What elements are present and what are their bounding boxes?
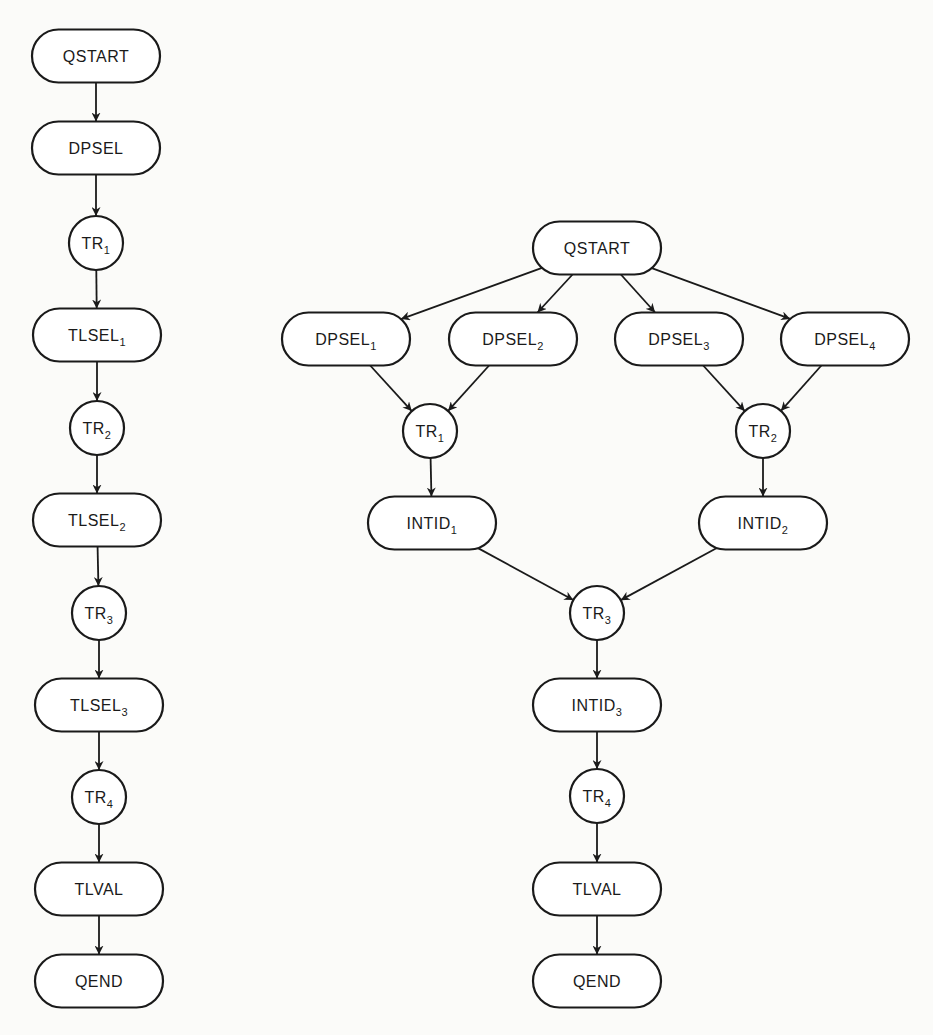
node-tlval: TLVAL	[35, 863, 163, 916]
node-tlval: TLVAL	[533, 863, 661, 916]
edge-arrow	[431, 458, 432, 497]
node-tlsel1: TLSEL1	[33, 309, 161, 362]
node-tr2: TR2	[70, 401, 124, 455]
node-tr3: TR3	[72, 586, 126, 640]
edge-arrow	[370, 366, 412, 412]
node-qstart: QSTART	[32, 30, 160, 83]
edge-arrow	[781, 366, 821, 411]
node-dpsel2: DPSEL2	[449, 313, 577, 366]
sequential-flow: QSTARTDPSELTR1TLSEL1TR2TLSEL2TR3TLSEL3TR…	[32, 30, 163, 1008]
right-nodes: QSTARTDPSEL1DPSEL2DPSEL3DPSEL4TR1TR2INTI…	[282, 222, 909, 1008]
node-intid1: INTID1	[368, 497, 496, 550]
node-tlsel2: TLSEL2	[33, 494, 161, 547]
edge-arrow	[478, 548, 573, 600]
node-label: TLVAL	[74, 881, 123, 898]
node-tlsel3: TLSEL3	[35, 679, 163, 732]
node-label: QEND	[75, 973, 123, 990]
node-tr2: TR2	[736, 404, 790, 458]
edge-arrow	[537, 275, 572, 313]
node-qend: QEND	[533, 955, 661, 1008]
flowchart-diagram: QSTARTDPSELTR1TLSEL1TR2TLSEL2TR3TLSEL3TR…	[0, 0, 933, 1035]
node-intid2: INTID2	[699, 497, 827, 550]
edge-arrow	[621, 548, 717, 600]
node-dpsel: DPSEL	[32, 122, 160, 175]
node-qend: QEND	[35, 955, 163, 1008]
node-dpsel3: DPSEL3	[615, 313, 743, 366]
node-tr1: TR1	[403, 404, 457, 458]
edge-arrow	[448, 366, 489, 411]
edge-arrow	[703, 366, 745, 412]
node-tr4: TR4	[72, 770, 126, 824]
node-label: QEND	[573, 973, 621, 990]
edge-arrow	[98, 547, 99, 587]
node-tr4: TR4	[570, 769, 624, 823]
node-label: TLVAL	[572, 881, 621, 898]
node-tr3: TR3	[570, 586, 624, 640]
node-label: QSTART	[564, 240, 630, 257]
node-tr1: TR1	[69, 216, 123, 270]
node-intid3: INTID3	[533, 679, 661, 732]
edge-arrow	[652, 268, 790, 319]
left-nodes: QSTARTDPSELTR1TLSEL1TR2TLSEL2TR3TLSEL3TR…	[32, 30, 163, 1008]
edge-arrow	[621, 275, 655, 313]
node-qstart: QSTART	[533, 222, 661, 275]
parallel-flow: QSTARTDPSEL1DPSEL2DPSEL3DPSEL4TR1TR2INTI…	[282, 222, 909, 1008]
node-label: QSTART	[63, 48, 129, 65]
node-label: DPSEL	[69, 140, 124, 157]
node-dpsel1: DPSEL1	[282, 313, 410, 366]
node-dpsel4: DPSEL4	[781, 313, 909, 366]
